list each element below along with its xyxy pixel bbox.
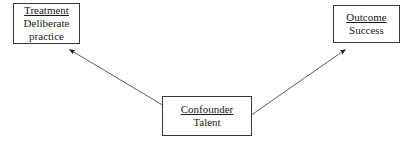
- node-treatment-value-line2: practice: [29, 30, 64, 43]
- node-outcome: Outcome Success: [333, 5, 400, 43]
- arrow-confounder-to-outcome: [252, 50, 346, 115]
- node-outcome-role: Outcome: [346, 11, 386, 24]
- node-treatment-role: Treatment: [24, 4, 69, 17]
- node-treatment: Treatment Deliberate practice: [13, 3, 80, 44]
- causal-diagram: Treatment Deliberate practice Outcome Su…: [0, 0, 413, 143]
- node-outcome-value: Success: [349, 24, 384, 37]
- arrow-confounder-to-treatment: [70, 50, 163, 106]
- node-confounder: Confounder Talent: [162, 96, 252, 136]
- node-treatment-value-line1: Deliberate: [24, 17, 70, 30]
- node-confounder-role: Confounder: [181, 103, 234, 116]
- node-confounder-value: Talent: [193, 116, 220, 129]
